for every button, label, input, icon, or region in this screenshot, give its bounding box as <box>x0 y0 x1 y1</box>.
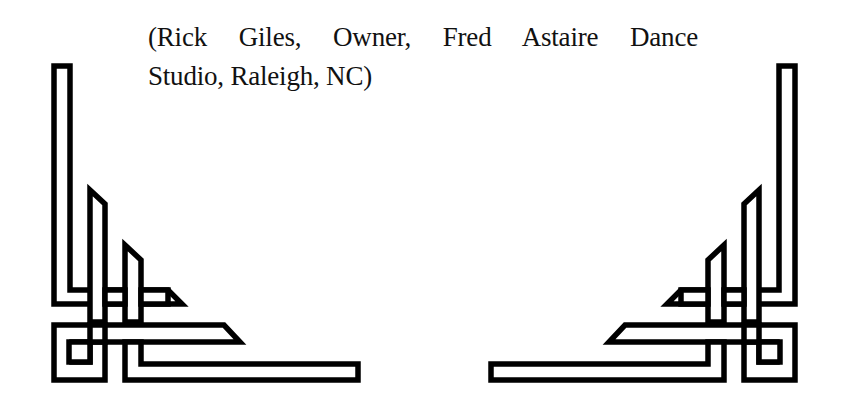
interlace-segment-b <box>681 290 708 304</box>
vertical-bar-3 <box>708 245 724 322</box>
interlace-segment-b <box>141 290 168 304</box>
vertical-2-pass <box>744 325 759 342</box>
interlace-segment-a <box>105 290 125 304</box>
interlace-segment-a <box>724 290 744 304</box>
bottom-long-bar <box>491 342 724 380</box>
outer-l-bar <box>54 66 182 304</box>
vertical-bar-3 <box>125 245 141 322</box>
vertical-2-pass <box>90 325 105 342</box>
corner-ornaments <box>0 0 842 408</box>
inner-square <box>759 342 780 362</box>
left-corner-ornament-icon <box>54 66 358 380</box>
right-corner-ornament-icon <box>491 66 795 380</box>
inner-square <box>69 342 90 362</box>
outer-l-bar <box>667 66 795 304</box>
bottom-long-bar <box>125 342 358 380</box>
